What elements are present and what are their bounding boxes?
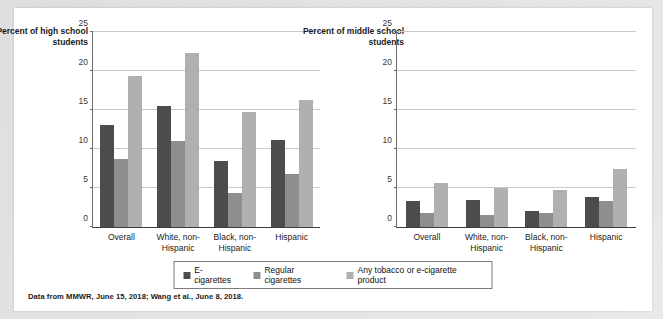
xtick-label-high-school-0: Overall xyxy=(89,232,153,243)
bar-group-high-school-1: White, non- Hispanic xyxy=(150,32,207,227)
bar-high-school-3-series-2 xyxy=(299,100,313,227)
bar-high-school-1-series-0 xyxy=(157,106,171,227)
legend-swatch-icon-0 xyxy=(184,272,191,279)
bars-high-school-1 xyxy=(150,32,207,227)
bar-group-middle-school-1: White, non- Hispanic xyxy=(457,32,517,227)
bar-high-school-3-series-1 xyxy=(285,174,299,227)
legend-label-2: Any tobacco or e-cigarette product xyxy=(358,265,483,285)
ytick-label-middle-school-0: 0 xyxy=(387,213,392,223)
chart-high-school-axis-title-wrap: Percent of high school students xyxy=(16,18,88,58)
bar-middle-school-3-series-1 xyxy=(599,201,613,227)
ytick-label-middle-school-20: 20 xyxy=(383,57,392,67)
legend-swatch-icon-1 xyxy=(254,272,261,279)
xtick-label-high-school-1: White, non- Hispanic xyxy=(146,232,210,253)
legend-label-0: E-cigarettes xyxy=(194,265,238,285)
bar-high-school-2-series-2 xyxy=(242,112,256,227)
bar-group-high-school-0: Overall xyxy=(93,32,150,227)
bar-group-middle-school-2: Black, non- Hispanic xyxy=(517,32,577,227)
chart-legend: E-cigarettesRegular cigarettesAny tobacc… xyxy=(174,261,493,289)
legend-item-1: Regular cigarettes xyxy=(254,265,331,285)
bars-middle-school-0 xyxy=(397,32,457,227)
bar-middle-school-3-series-0 xyxy=(585,197,599,227)
xtick-label-high-school-2: Black, non- Hispanic xyxy=(203,232,267,253)
bar-group-middle-school-0: Overall xyxy=(397,32,457,227)
figure-panel: Percent of high school students 05101520… xyxy=(14,8,652,311)
ytick-label-high-school-25: 25 xyxy=(79,18,88,28)
ytick-label-middle-school-25: 25 xyxy=(383,18,392,28)
figure-root: Percent of high school students 05101520… xyxy=(0,0,663,319)
ytick-label-high-school-10: 10 xyxy=(79,135,88,145)
ytick-label-middle-school-10: 10 xyxy=(383,135,392,145)
ytick-label-middle-school-5: 5 xyxy=(387,174,392,184)
bar-high-school-3-series-0 xyxy=(271,140,285,227)
bar-group-high-school-2: Black, non- Hispanic xyxy=(207,32,264,227)
bar-middle-school-0-series-0 xyxy=(406,201,420,227)
chart-middle-school-plot-area: 0510152025OverallWhite, non- HispanicBla… xyxy=(396,32,636,228)
chart-high-school-plot-area: 0510152025OverallWhite, non- HispanicBla… xyxy=(92,32,320,228)
legend-label-1: Regular cigarettes xyxy=(264,265,330,285)
bars-middle-school-3 xyxy=(576,32,636,227)
bar-high-school-2-series-0 xyxy=(214,161,228,227)
xtick-label-middle-school-1: White, non- Hispanic xyxy=(455,232,519,253)
bars-middle-school-1 xyxy=(457,32,517,227)
bar-middle-school-2-series-0 xyxy=(525,211,539,227)
legend-item-0: E-cigarettes xyxy=(184,265,238,285)
bar-middle-school-1-series-0 xyxy=(466,200,480,227)
bar-high-school-2-series-1 xyxy=(228,193,242,227)
bars-high-school-0 xyxy=(93,32,150,227)
ytick-label-high-school-0: 0 xyxy=(83,213,88,223)
bar-group-high-school-3: Hispanic xyxy=(263,32,320,227)
bar-group-middle-school-3: Hispanic xyxy=(576,32,636,227)
bars-high-school-2 xyxy=(207,32,264,227)
ytick-label-high-school-5: 5 xyxy=(83,174,88,184)
source-note: Data from MMWR, June 15, 2018; Wang et a… xyxy=(28,292,243,301)
bar-high-school-1-series-1 xyxy=(171,141,185,227)
bar-high-school-1-series-2 xyxy=(185,53,199,227)
bar-middle-school-0-series-1 xyxy=(420,213,434,227)
xtick-label-high-school-3: Hispanic xyxy=(260,232,324,243)
bar-middle-school-0-series-2 xyxy=(434,183,448,227)
ytick-label-high-school-20: 20 xyxy=(79,57,88,67)
bar-middle-school-2-series-1 xyxy=(539,213,553,227)
bar-middle-school-1-series-2 xyxy=(494,188,508,227)
xtick-label-middle-school-3: Hispanic xyxy=(574,232,638,243)
bar-high-school-0-series-0 xyxy=(100,125,114,227)
chart-high-school-y-axis-title: Percent of high school students xyxy=(0,26,88,48)
legend-item-2: Any tobacco or e-cigarette product xyxy=(347,265,483,285)
bar-middle-school-2-series-2 xyxy=(553,190,567,227)
bar-middle-school-3-series-2 xyxy=(613,169,627,228)
chart-high-school: Percent of high school students 05101520… xyxy=(16,18,334,248)
chart-middle-school: Percent of middle school students 051015… xyxy=(332,18,650,248)
chart-middle-school-axis-title-wrap: Percent of middle school students xyxy=(332,18,404,58)
bars-high-school-3 xyxy=(263,32,320,227)
xtick-label-middle-school-0: Overall xyxy=(395,232,459,243)
chart-middle-school-y-axis-title: Percent of middle school students xyxy=(300,26,404,48)
bar-middle-school-1-series-1 xyxy=(480,215,494,227)
ytick-label-middle-school-15: 15 xyxy=(383,96,392,106)
bar-high-school-0-series-1 xyxy=(114,159,128,227)
legend-swatch-icon-2 xyxy=(347,272,354,279)
xtick-label-middle-school-2: Black, non- Hispanic xyxy=(514,232,578,253)
bar-high-school-0-series-2 xyxy=(128,76,142,227)
ytick-label-high-school-15: 15 xyxy=(79,96,88,106)
bars-middle-school-2 xyxy=(517,32,577,227)
